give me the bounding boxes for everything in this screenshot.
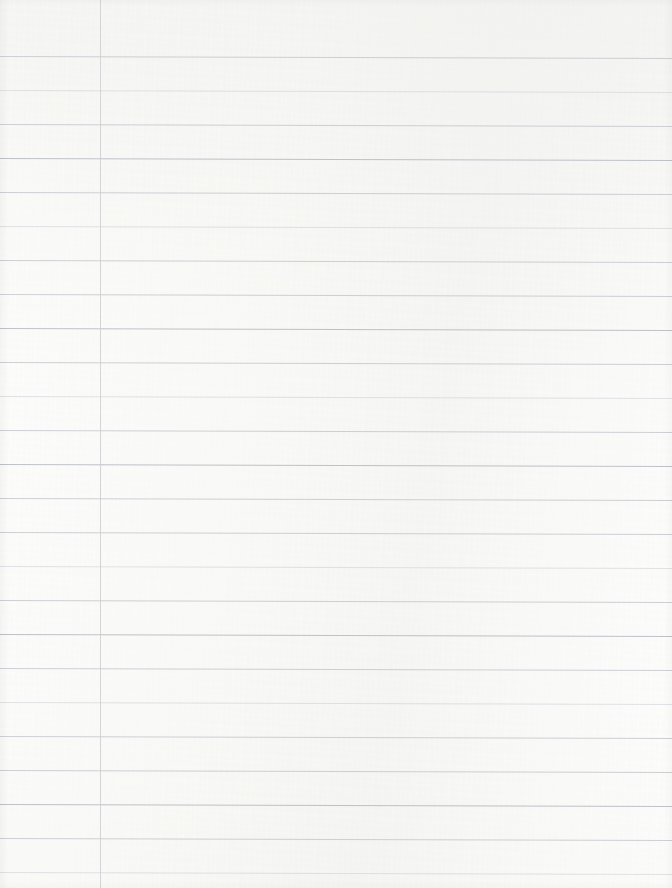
writing-area[interactable]	[101, 0, 672, 888]
notebook-paper-sheet	[0, 0, 672, 888]
